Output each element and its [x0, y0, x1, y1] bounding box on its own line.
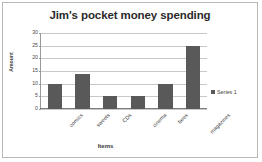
legend-swatch-icon	[211, 90, 215, 94]
bar-slot	[179, 33, 207, 109]
y-tick-label: 10	[26, 81, 38, 86]
y-tick-label: 0	[26, 106, 38, 111]
bar[interactable]	[103, 96, 117, 109]
y-tick-label: 20	[26, 56, 38, 61]
plot-area: 302520151050	[41, 33, 207, 109]
chart-legend: Series 1	[211, 89, 237, 95]
bar-slot	[69, 33, 97, 109]
x-axis-label: magazines	[209, 112, 232, 135]
bar[interactable]	[75, 74, 89, 109]
y-tick-label: 15	[26, 68, 38, 73]
y-tick-label: 30	[26, 30, 38, 35]
legend-label: Series 1	[217, 89, 237, 95]
bar-slot	[124, 33, 152, 109]
bar-slot	[152, 33, 180, 109]
x-axis-label: fares	[177, 112, 190, 125]
x-axis-label: sweets	[95, 112, 111, 128]
y-tick-mark	[39, 109, 41, 110]
y-tick-label: 5	[26, 94, 38, 99]
y-axis-title: Amount	[8, 42, 14, 82]
gridline	[41, 109, 207, 110]
bar[interactable]	[186, 46, 200, 109]
x-axis-label: comics	[67, 112, 83, 128]
bar[interactable]	[48, 84, 62, 109]
x-axis-label: CDs	[121, 112, 133, 124]
bar-slot	[96, 33, 124, 109]
x-axis-label: cinema	[151, 112, 168, 129]
bar[interactable]	[131, 96, 145, 109]
y-tick-label: 25	[26, 43, 38, 48]
chart-title: Jim's pocket money spending	[3, 9, 257, 21]
x-axis-title: Items	[3, 143, 208, 149]
bar-slot	[41, 33, 69, 109]
bar-series	[41, 33, 207, 109]
bar[interactable]	[158, 84, 172, 109]
chart-frame: Jim's pocket money spending Amount 30252…	[2, 2, 258, 158]
